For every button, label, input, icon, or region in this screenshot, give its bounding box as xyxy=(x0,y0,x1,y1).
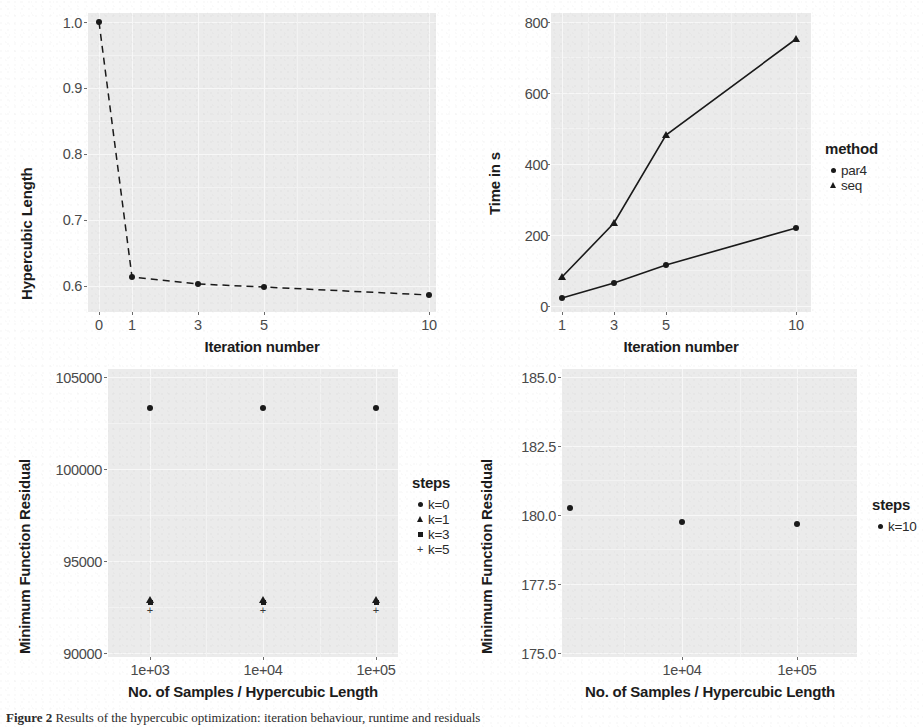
chart1-legend: method par4 seq xyxy=(825,140,878,193)
chart3-xtickmark xyxy=(797,657,798,660)
chart0-ytickmark xyxy=(84,220,87,221)
chart1-plot-panel xyxy=(551,13,811,312)
gridline-minor-v xyxy=(320,369,321,657)
gridline-major-h xyxy=(562,653,857,654)
chart2-xtickmark xyxy=(150,657,151,660)
gridline-minor-v xyxy=(624,369,625,657)
chart0-xtick-4: 5 xyxy=(244,317,284,333)
chart-runtime: Time in s 800 600 400 200 0 xyxy=(462,0,923,364)
data-point xyxy=(261,284,267,290)
chart1-ytick-1: 800 xyxy=(492,15,548,31)
chart0-x-axis-label: Iteration number xyxy=(88,338,436,355)
data-point-par4 xyxy=(559,295,565,301)
chart3-xtick-1: 1e+04 xyxy=(647,662,717,678)
legend-item-k5[interactable]: k=5 xyxy=(412,542,450,556)
gridline-major-h xyxy=(562,584,857,585)
chart3-ytickmark xyxy=(558,584,561,585)
data-point-par4 xyxy=(793,225,799,231)
chart1-x-axis-label: Iteration number xyxy=(551,338,811,355)
chart1-ytickmark xyxy=(547,93,550,94)
legend-item-seq[interactable]: seq xyxy=(825,178,878,192)
legend-label: seq xyxy=(841,178,862,193)
legend-key-circle-icon xyxy=(872,519,888,533)
chart0-xtick-5: 10 xyxy=(409,317,449,333)
data-point xyxy=(129,274,135,280)
data-point-k10 xyxy=(794,521,800,527)
data-point-seq xyxy=(792,35,800,42)
figure-caption-text: Results of the hypercubic optimization: … xyxy=(56,710,481,725)
chart2-xtickmark xyxy=(376,657,377,660)
data-point-k0 xyxy=(147,405,153,411)
chart0-ytick-4: 0.7 xyxy=(32,212,82,228)
gridline-minor-h xyxy=(562,549,857,550)
data-point xyxy=(195,281,201,287)
legend-item-par4[interactable]: par4 xyxy=(825,163,878,177)
chart0-ytick-2: 0.9 xyxy=(32,80,82,96)
legend-key-plus-icon xyxy=(412,542,428,556)
chart1-ytick-5: 0 xyxy=(492,299,548,315)
legend-item-k3[interactable]: k=3 xyxy=(412,527,450,541)
figure-caption-prefix: Figure 2 xyxy=(6,710,52,725)
chart1-xtickmark xyxy=(614,312,615,315)
chart1-ytick-4: 200 xyxy=(492,228,548,244)
chart0-plot-panel xyxy=(88,13,436,312)
chart1-xtick-4: 10 xyxy=(776,317,816,333)
gridline-minor-h xyxy=(562,618,857,619)
gridline-major-h xyxy=(562,377,857,378)
chart2-ytick-3: 95000 xyxy=(24,554,102,570)
data-point xyxy=(96,19,102,25)
chart1-ytickmark xyxy=(547,306,550,307)
chart3-ytickmark xyxy=(558,446,561,447)
chart1-ytick-2: 600 xyxy=(492,86,548,102)
data-point-k5 xyxy=(372,606,381,615)
chart3-ytick-2: 182.5 xyxy=(494,439,556,455)
legend-label: k=0 xyxy=(428,497,449,512)
legend-item-k10[interactable]: k=10 xyxy=(872,519,916,533)
data-point-seq xyxy=(662,131,670,138)
gridline-major-h xyxy=(562,515,857,516)
chart3-ytickmark xyxy=(558,653,561,654)
chart1-ytickmark xyxy=(547,235,550,236)
chart2-ytickmark xyxy=(104,377,107,378)
data-point-par4 xyxy=(663,262,669,268)
chart2-legend-title: steps xyxy=(412,474,450,491)
chart2-ytick-2: 100000 xyxy=(24,462,102,478)
chart0-xtick-3: 3 xyxy=(178,317,218,333)
gridline-minor-h xyxy=(108,423,398,424)
chart0-ytick-3: 0.8 xyxy=(32,146,82,162)
chart0-series-line xyxy=(88,13,436,312)
legend-label: k=1 xyxy=(428,512,449,527)
legend-key-circle-icon xyxy=(825,163,841,177)
chart2-x-axis-label: No. of Samples / Hypercubic Length xyxy=(80,683,426,700)
chart3-y-axis-label: Minimum Function Residual xyxy=(478,459,495,654)
gridline-minor-v xyxy=(740,369,741,657)
chart0-ytickmark xyxy=(84,286,87,287)
chart1-xtickmark xyxy=(666,312,667,315)
chart0-ytickmark xyxy=(84,88,87,89)
legend-key-square-icon xyxy=(412,527,428,541)
gridline-major-h xyxy=(562,446,857,447)
chart3-legend-title: steps xyxy=(872,496,916,513)
chart1-legend-title: method xyxy=(825,140,878,157)
chart0-ytickmark xyxy=(84,22,87,23)
chart1-xtickmark xyxy=(562,312,563,315)
gridline-minor-v xyxy=(206,369,207,657)
chart2-xtickmark xyxy=(263,657,264,660)
legend-item-k0[interactable]: k=0 xyxy=(412,497,450,511)
gridline-major-h xyxy=(108,653,398,654)
chart3-xtick-2: 1e+05 xyxy=(762,662,832,678)
chart0-ytick-5: 0.6 xyxy=(32,278,82,294)
chart2-xtick-2: 1e+04 xyxy=(228,662,298,678)
chart2-legend: steps k=0 k=1 k=3 k=5 xyxy=(412,474,450,557)
data-point-k10 xyxy=(679,519,685,525)
chart3-ytickmark xyxy=(558,377,561,378)
chart-hypercubic-length: Hypercubic Length 1.0 0.9 0.8 0.7 0.6 xyxy=(0,0,462,364)
data-point-k5 xyxy=(259,606,268,615)
legend-item-k1[interactable]: k=1 xyxy=(412,512,450,526)
chart1-ytick-3: 400 xyxy=(492,157,548,173)
data-point-par4 xyxy=(611,280,617,286)
chart3-ytickmark xyxy=(558,515,561,516)
chart3-ytick-3: 180.0 xyxy=(494,508,556,524)
chart0-xtickmark xyxy=(132,312,133,315)
legend-key-triangle-icon xyxy=(412,512,428,526)
